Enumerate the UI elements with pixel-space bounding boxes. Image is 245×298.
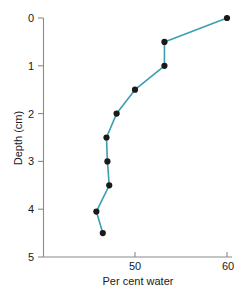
data-point: [106, 182, 112, 188]
data-point: [100, 230, 106, 236]
y-tick-label-5: 5: [28, 251, 34, 263]
chart-background: [0, 0, 245, 298]
data-point: [103, 134, 109, 140]
x-tick-label-60: 60: [222, 260, 234, 272]
data-point: [93, 208, 99, 214]
data-point: [161, 39, 167, 45]
x-axis-title: Per cent water: [103, 275, 174, 287]
y-tick-label-3: 3: [28, 155, 34, 167]
chart-canvas: 0 1 2 3 4 5 50 60 Per cent water Depth (…: [0, 0, 245, 298]
data-point: [104, 158, 110, 164]
data-point: [224, 15, 230, 21]
data-point: [114, 111, 120, 117]
y-axis-title: Depth (cm): [12, 111, 24, 165]
y-tick-label-2: 2: [28, 108, 34, 120]
y-tick-label-4: 4: [28, 203, 34, 215]
x-tick-label-50: 50: [129, 260, 141, 272]
y-tick-label-0: 0: [28, 12, 34, 24]
depth-vs-water-content-chart: 0 1 2 3 4 5 50 60 Per cent water Depth (…: [0, 0, 245, 298]
data-point: [132, 87, 138, 93]
y-tick-label-1: 1: [28, 60, 34, 72]
data-point: [161, 63, 167, 69]
